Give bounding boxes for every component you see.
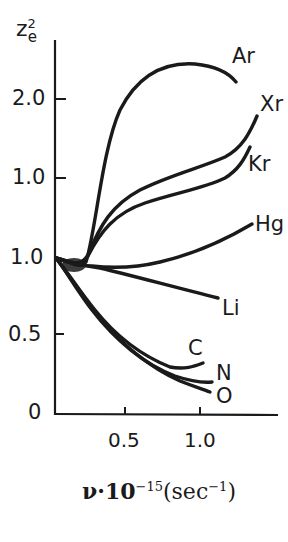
x-axis-label-unit-close: )	[227, 479, 236, 504]
x-axis-label-unit-exp: −1	[208, 479, 227, 494]
curve-label-li: Li	[222, 296, 240, 320]
x-axis-label: ν·10−15(sec−1)	[82, 478, 236, 504]
y-axis-label-sub: e	[28, 28, 37, 46]
curve-crossing-blob	[62, 258, 86, 272]
curve-label-n: N	[216, 361, 232, 385]
curve-xr	[56, 116, 257, 263]
curve-label-ar: Ar	[232, 44, 255, 68]
y-tick-label: 0	[28, 400, 41, 424]
y-tick-label: 2.0	[12, 86, 45, 110]
chart-canvas	[0, 0, 288, 542]
y-axis-label-base: z	[16, 16, 28, 41]
curve-label-o: O	[216, 384, 233, 408]
y-axis-label: z2e	[16, 16, 37, 41]
curve-label-c: C	[188, 336, 203, 360]
y-tick-label: 0.5	[8, 322, 41, 346]
x-tick-label: 0.5	[108, 428, 140, 452]
curve-kr	[56, 147, 250, 263]
curve-o	[56, 258, 210, 392]
x-axis-label-exp: −15	[136, 479, 163, 494]
y-tick-label: 1.0	[10, 245, 43, 269]
x-tick-label: 1.0	[184, 428, 216, 452]
x-axis	[54, 414, 278, 415]
curve-label-kr: Kr	[248, 152, 270, 176]
curve-label-hg: Hg	[255, 212, 284, 236]
curve-label-xr: Xr	[260, 92, 283, 116]
y-tick-label: 1.0	[12, 165, 45, 189]
x-axis-label-unit: (sec	[163, 479, 208, 504]
x-axis-label-base: ν·10	[82, 478, 136, 504]
